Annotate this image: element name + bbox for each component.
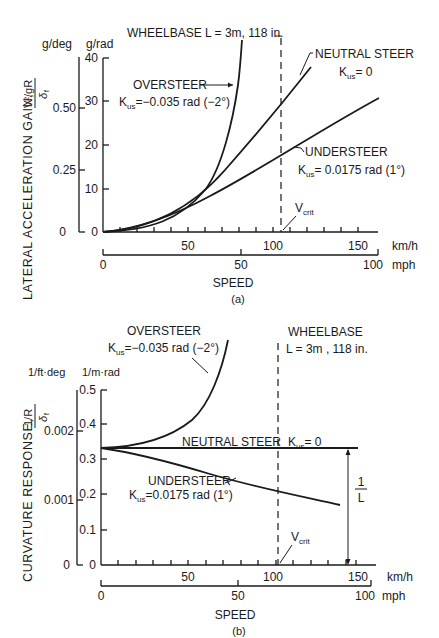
one-over-L-num: 1 (358, 475, 365, 489)
y-unit-primary-a: g/rad (86, 37, 113, 51)
label-kus-neutral-a: Kus= 0 (339, 65, 373, 81)
ytick-a-0: 0 (91, 225, 98, 239)
x-axis-label-b: SPEED (215, 608, 256, 622)
y-axis-label-a: LATERAL ACCELERATION GAIN, (21, 94, 35, 300)
x-unit-kmh-a: km/h (392, 239, 418, 253)
ytick-b-4: 0.4 (79, 417, 96, 431)
label-kus-oversteer-b: Kus=−0.035 rad (−2°) (108, 341, 219, 357)
label-oversteer-b: OVERSTEER (127, 324, 201, 338)
label-understeer-b: UNDERSTEER (148, 474, 231, 488)
label-kus-oversteer-a: Kus=−0.035 rad (−2°) (119, 95, 230, 111)
ytick-sec-a-2: 0.50 (53, 101, 77, 115)
vcrit-label-a: Vcrit (295, 201, 314, 217)
vcrit-label-b: Vcrit (291, 530, 310, 546)
label-kus-neutral-b: Kus= 0 (288, 435, 322, 451)
ytick-b-2: 0.2 (79, 487, 96, 501)
xtick-kmh-b-1: 100 (263, 570, 283, 584)
y-unit-secondary-a: g/deg (42, 37, 72, 51)
wheelbase-value-b: L = 3m , 118 in. (286, 342, 368, 356)
ytick-b-3: 0.3 (79, 452, 96, 466)
x-unit-kmh-b: km/h (387, 570, 413, 584)
label-understeer-a: UNDERSTEER (305, 145, 388, 159)
xtick-kmh-b-2: 150 (348, 570, 368, 584)
ytick-sec-a-0: 0 (59, 225, 66, 239)
svg-text:LATERAL ACCELERATION GAIN,: LATERAL ACCELERATION GAIN, (21, 94, 35, 300)
x-unit-mph-a: mph (392, 258, 415, 272)
xtick-kmh-a-2: 150 (348, 239, 368, 253)
caption-b: (b) (232, 625, 245, 637)
label-neutral-a: NEUTRAL STEER (315, 47, 414, 61)
ytick-sec-a-1: 0.25 (53, 163, 77, 177)
ytick-a-4: 40 (85, 51, 99, 65)
xtick-mph-b-1: 50 (231, 589, 245, 603)
y-axis-label-b: CURVATURE RESPONSE, (21, 418, 35, 582)
svg-text:CURVATURE RESPONSE,: CURVATURE RESPONSE, (21, 418, 35, 582)
x-unit-mph-b: mph (382, 589, 405, 603)
ytick-b-1: 0.1 (79, 523, 96, 537)
svg-text:f: f (43, 413, 50, 415)
label-oversteer-a: OVERSTEER (133, 78, 207, 92)
ytick-b-5: 0.5 (79, 383, 96, 397)
ytick-b-0: 0 (89, 558, 96, 572)
ytick-sec-b-0: 0 (63, 558, 70, 572)
y-axis-formula-a: V²/gR δ f (22, 78, 50, 108)
curve-oversteer-a (103, 40, 242, 232)
x-axis-label-a: SPEED (213, 276, 254, 290)
figure-canvas: g/deg g/rad LATERAL ACCELERATION GAIN, V… (0, 0, 439, 638)
svg-text:δ: δ (37, 415, 49, 422)
y-unit-primary-b: 1/m·rad (82, 366, 120, 378)
xtick-mph-a-1: 50 (234, 258, 248, 272)
caption-a: (a) (231, 293, 244, 305)
ytick-a-3: 30 (85, 94, 99, 108)
one-over-L-den: L (358, 491, 365, 505)
ytick-a-2: 20 (85, 138, 99, 152)
svg-text:δ: δ (37, 92, 49, 99)
xtick-kmh-a-1: 100 (263, 239, 283, 253)
chart-a: g/deg g/rad LATERAL ACCELERATION GAIN, V… (21, 26, 418, 305)
xtick-mph-a-0: 0 (100, 258, 107, 272)
xtick-mph-b-0: 0 (98, 589, 105, 603)
svg-text:1/R: 1/R (22, 409, 34, 426)
xtick-kmh-b-0: 50 (181, 570, 195, 584)
xtick-mph-a-2: 100 (363, 258, 383, 272)
wheelbase-label-a: WHEELBASE L = 3m, 118 in. (127, 26, 283, 40)
label-neutral-b: NEUTRAL STEER (182, 435, 281, 449)
svg-text:V²/gR: V²/gR (22, 80, 34, 108)
label-kus-understeer-b: Kus=0.0175 rad (1°) (129, 488, 233, 504)
ytick-sec-b-1: 0.001 (44, 493, 74, 507)
ytick-a-1: 10 (85, 182, 99, 196)
label-kus-understeer-a: Kus= 0.0175 rad (1°) (298, 163, 405, 179)
wheelbase-label-b: WHEELBASE (288, 325, 363, 339)
ytick-sec-b-2: 0.002 (44, 424, 74, 438)
y-unit-secondary-b: 1/ft·deg (28, 366, 65, 378)
svg-text:f: f (43, 90, 50, 92)
xtick-mph-b-2: 100 (355, 589, 375, 603)
xtick-kmh-a-0: 50 (181, 239, 195, 253)
chart-b: 1/ft·deg 1/m·rad CURVATURE RESPONSE, 1/R… (21, 324, 413, 637)
